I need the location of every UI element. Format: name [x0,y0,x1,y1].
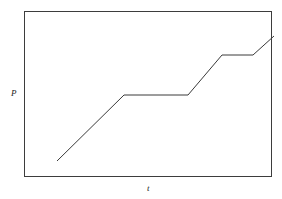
y-axis-label: P [11,89,17,98]
series-line-p-of-t [57,36,274,161]
figure-root: Fıgurе версіо тиме P t [0,0,282,199]
x-axis-label: t [147,184,150,193]
plot-canvas [0,0,282,199]
